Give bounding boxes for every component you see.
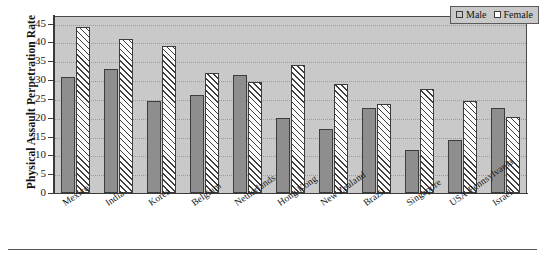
chart-legend: Male Female [450,6,539,24]
bar-mexico-male [61,77,75,193]
bar-brazil-male [362,108,376,193]
bar-usa-pennsylvania-male [448,140,462,193]
y-tick-0 [48,193,54,194]
bar-israel-male [491,108,505,193]
y-tick-label-20: 20 [20,111,46,123]
bar-brazil-female [377,104,391,193]
chart-figure: Physical Assault Perpetration Rate 05101… [0,0,545,277]
y-tick-label-25: 25 [20,92,46,104]
bar-new-zealand-male [319,129,333,193]
bar-layer [54,17,526,193]
y-tick-5 [48,174,54,175]
bar-hong-kong-female [291,65,305,193]
legend-item-male: Male [456,9,487,20]
bar-singapore-male [405,150,419,193]
bar-hong-kong-male [276,118,290,193]
y-tick-15 [48,137,54,138]
bar-netherlands-male [233,75,247,193]
y-tick-label-0: 0 [20,186,46,198]
y-tick-label-40: 40 [20,35,46,47]
y-tick-10 [48,155,54,156]
legend-label-male: Male [466,9,487,20]
bar-india-male [104,69,118,193]
y-tick-40 [48,42,54,43]
bar-mexico-female [76,27,90,193]
y-tick-label-10: 10 [20,148,46,160]
y-tick-label-15: 15 [20,130,46,142]
y-tick-label-45: 45 [20,17,46,29]
y-tick-20 [48,118,54,119]
plot-area [54,16,527,193]
male-swatch-icon [456,11,463,18]
bar-belgium-male [190,95,204,193]
bar-korea-female [162,46,176,193]
y-tick-label-35: 35 [20,54,46,66]
bar-india-female [119,39,133,193]
bar-singapore-female [420,89,434,193]
legend-label-female: Female [504,9,533,20]
y-tick-30 [48,80,54,81]
bar-korea-male [147,101,161,193]
female-swatch-icon [494,11,501,18]
legend-item-female: Female [494,9,533,20]
bar-netherlands-female [248,82,262,193]
y-tick-45 [48,24,54,25]
y-tick-25 [48,99,54,100]
y-tick-label-5: 5 [20,167,46,179]
footer-rule [8,249,537,250]
y-tick-35 [48,61,54,62]
y-tick-label-30: 30 [20,73,46,85]
bar-belgium-female [205,73,219,194]
bar-new-zealand-female [334,84,348,193]
